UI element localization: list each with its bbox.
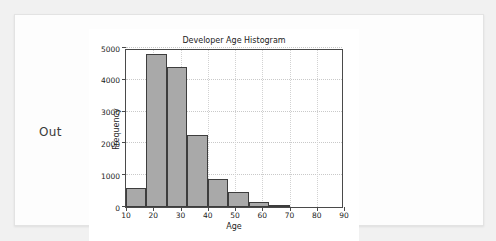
y-tick-label: 0 (115, 203, 120, 212)
x-tick-label: 90 (339, 211, 349, 220)
y-tick-label: 4000 (101, 76, 120, 85)
x-axis-title: Age (126, 222, 342, 231)
x-tick-label: 50 (230, 211, 240, 220)
histogram-bar (249, 202, 269, 207)
x-tick-label: 60 (257, 211, 267, 220)
matplotlib-figure: Developer Age Histogram 0100020003000400… (89, 29, 359, 241)
histogram-bar (228, 192, 248, 207)
y-axis-title: Frequency (112, 108, 121, 149)
plot-axes: Developer Age Histogram 0100020003000400… (125, 49, 343, 208)
histogram-bar (167, 67, 187, 207)
y-tick-label: 5000 (101, 44, 120, 53)
gridline-vertical (235, 50, 236, 207)
histogram-bar (187, 135, 207, 207)
x-tick-label: 40 (203, 211, 213, 220)
page-root: Out Developer Age Histogram 010002000300… (0, 0, 496, 241)
histogram-bar (208, 179, 228, 207)
x-tick-label: 70 (285, 211, 295, 220)
histogram-bar (126, 188, 146, 207)
x-tick-label: 20 (148, 211, 158, 220)
y-tick-mark (122, 79, 126, 80)
y-tick-label: 1000 (101, 171, 120, 180)
notebook-output-cell: Out Developer Age Histogram 010002000300… (14, 14, 484, 226)
y-tick-mark (122, 174, 126, 175)
y-tick-mark (122, 111, 126, 112)
x-tick-label: 30 (176, 211, 186, 220)
chart-title: Developer Age Histogram (126, 36, 342, 45)
x-tick-label: 10 (121, 211, 131, 220)
y-tick-mark (122, 142, 126, 143)
gridline-horizontal (126, 47, 342, 48)
gridline-vertical (262, 50, 263, 207)
gridline-vertical (290, 50, 291, 207)
histogram-bar (146, 54, 166, 207)
y-tick-mark (122, 47, 126, 48)
x-tick-label: 80 (312, 211, 322, 220)
gridline-vertical (317, 50, 318, 207)
histogram-bar (269, 205, 289, 207)
